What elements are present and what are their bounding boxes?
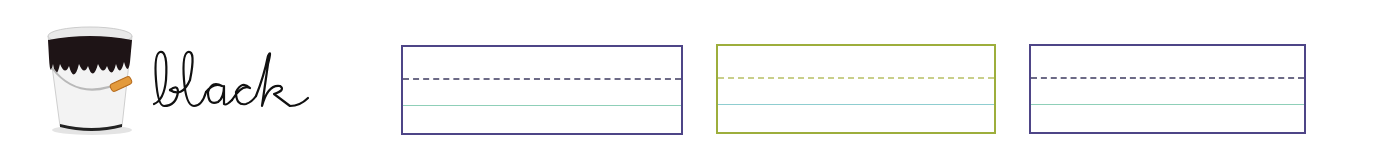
writing-box-2[interactable] — [716, 44, 996, 134]
midline-dashed — [403, 78, 681, 80]
midline-dashed — [1031, 77, 1304, 79]
baseline-solid — [403, 105, 681, 106]
color-word-label — [150, 40, 330, 120]
midline-dashed — [718, 77, 994, 79]
baseline-solid — [718, 104, 994, 105]
writing-box-3[interactable] — [1029, 44, 1306, 134]
baseline-solid — [1031, 104, 1304, 105]
writing-box-1[interactable] — [401, 45, 683, 135]
cursive-word-black — [150, 40, 330, 120]
paint-bucket-icon — [40, 18, 140, 136]
paint-bucket-illustration — [40, 18, 140, 136]
